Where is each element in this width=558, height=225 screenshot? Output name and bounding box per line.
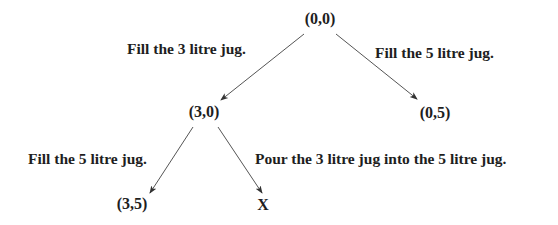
edges-layer xyxy=(0,0,558,225)
node-3-0: (3,0) xyxy=(189,104,220,120)
node-3-5: (3,5) xyxy=(117,196,148,212)
edge-label-fill-5-litre-top: Fill the 5 litre jug. xyxy=(375,45,494,61)
edge-label-fill-3-litre: Fill the 3 litre jug. xyxy=(127,41,246,57)
edge-label-fill-5-litre-bottom: Fill the 5 litre jug. xyxy=(28,151,147,167)
node-0-5: (0,5) xyxy=(420,105,451,121)
edge-arrow-3-0-to-3-5 xyxy=(150,127,193,193)
node-root-0-0: (0,0) xyxy=(305,11,336,27)
node-dead-end-x: X xyxy=(257,197,269,213)
edge-label-pour-3-into-5: Pour the 3 litre jug into the 5 litre ju… xyxy=(255,151,506,167)
state-space-tree-diagram: (0,0) (3,0) (0,5) (3,5) X Fill the 3 lit… xyxy=(0,0,558,225)
